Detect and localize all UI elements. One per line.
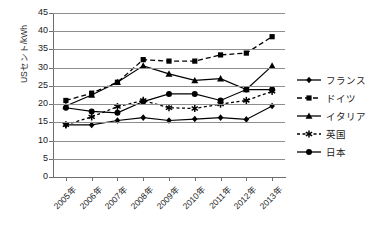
legend-item-1[interactable]: フランス (296, 71, 374, 89)
x-axis-tick (143, 177, 144, 181)
x-axis-tick (246, 177, 247, 181)
series-layer (53, 13, 285, 177)
legend-marker-asterisk-icon (296, 128, 322, 140)
y-axis-tick (49, 13, 53, 14)
legend-label: 英国 (326, 127, 346, 141)
legend-marker-diamond-icon (296, 74, 322, 86)
x-axis-tick (272, 177, 273, 181)
legend-marker-circle-icon (296, 146, 322, 158)
gridline (53, 141, 285, 142)
legend-label: イタリア (326, 109, 366, 123)
gridline (53, 86, 285, 87)
plot-canvas (53, 13, 285, 177)
x-axis-tick (169, 177, 170, 181)
legend: フランスドイツイタリア英国日本 (296, 71, 374, 161)
gridline (53, 159, 285, 160)
gridline (53, 13, 285, 14)
legend-item-3[interactable]: イタリア (296, 107, 374, 125)
legend-item-5[interactable]: 日本 (296, 143, 374, 161)
y-axis-tick (49, 49, 53, 50)
y-axis-tick (49, 159, 53, 160)
gridline (53, 68, 285, 69)
x-axis-tick (195, 177, 196, 181)
x-axis-tick (117, 177, 118, 181)
legend-marker-square-icon (296, 92, 322, 104)
y-axis-tick (49, 122, 53, 123)
y-axis-tick (49, 177, 53, 178)
gridline (53, 49, 285, 50)
y-axis-tick (49, 104, 53, 105)
y-axis-tick (49, 86, 53, 87)
y-axis-tick (49, 68, 53, 69)
gridline (53, 31, 285, 32)
legend-label: 日本 (326, 145, 346, 159)
legend-item-2[interactable]: ドイツ (296, 89, 374, 107)
legend-label: ドイツ (326, 91, 356, 105)
gridline (53, 104, 285, 105)
gridline (53, 122, 285, 123)
y-axis-tick (49, 141, 53, 142)
x-axis-tick (221, 177, 222, 181)
legend-marker-triangle-icon (296, 110, 322, 122)
legend-item-4[interactable]: 英国 (296, 125, 374, 143)
x-axis-tick (66, 177, 67, 181)
line-chart: USセント/kWh 051015202530354045 フランスドイツイタリア… (0, 0, 377, 233)
legend-label: フランス (326, 73, 366, 87)
x-axis-tick (92, 177, 93, 181)
y-axis-tick (49, 31, 53, 32)
